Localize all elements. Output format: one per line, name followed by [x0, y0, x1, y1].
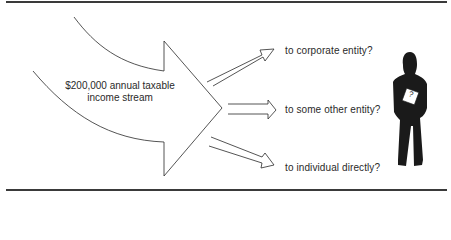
arrow-to-other-entity-icon [228, 100, 276, 119]
destination-corporate: to corporate entity? [285, 45, 373, 56]
person-silhouette-icon [393, 52, 427, 166]
income-stream-label: $200,000 annual taxable income stream [55, 80, 185, 104]
arrow-to-individual-icon [209, 137, 274, 168]
destination-individual: to individual directly? [285, 162, 380, 173]
bottom-rule [6, 189, 447, 191]
arrow-to-corporate-icon [207, 49, 274, 86]
destination-other-entity: to some other entity? [285, 104, 380, 115]
income-stream-line2: income stream [55, 92, 185, 104]
income-stream-line1: $200,000 annual taxable [55, 80, 185, 92]
